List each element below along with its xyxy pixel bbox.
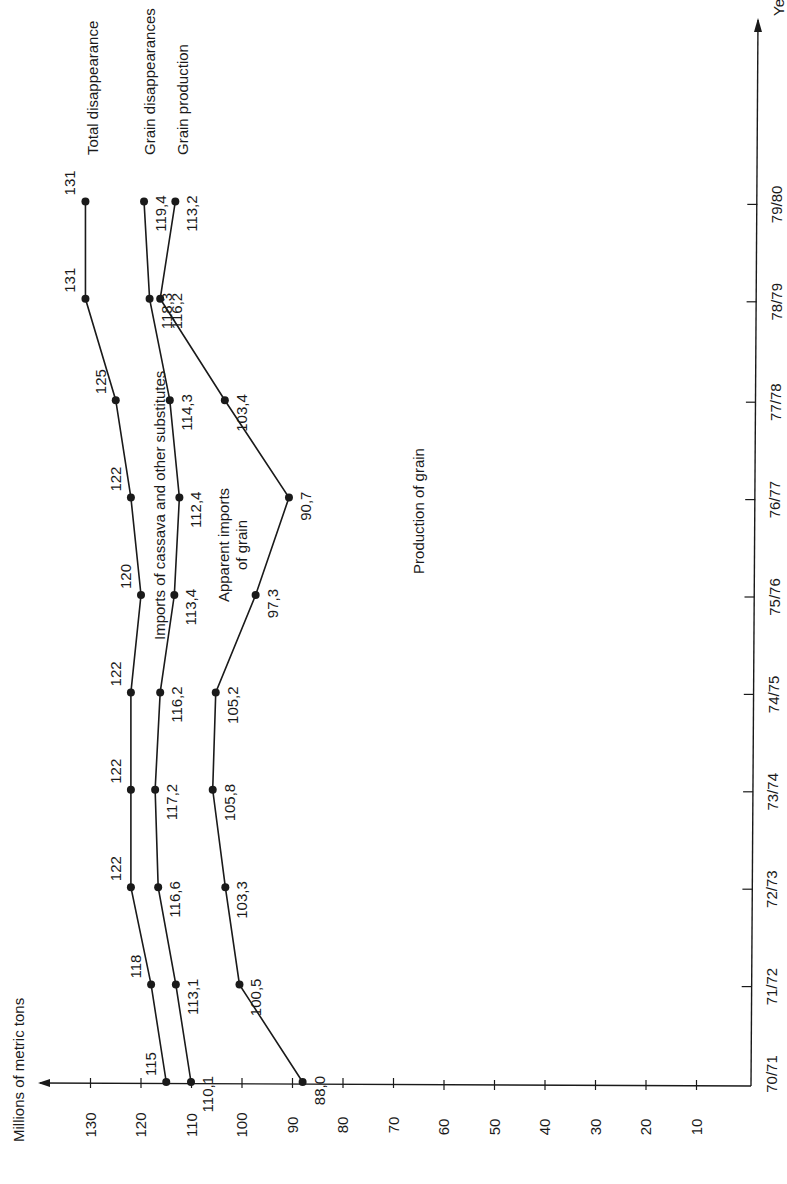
value-tick-label: 130 bbox=[82, 1112, 99, 1137]
data-point-label: 118 bbox=[127, 955, 144, 979]
value-tick-label: 50 bbox=[486, 1119, 503, 1136]
series-label-grain-disappearances: Grain disappearances bbox=[141, 8, 158, 155]
series-label-total-disappearance: Total disappearance bbox=[84, 21, 101, 155]
value-tick-label: 110 bbox=[183, 1113, 200, 1137]
data-point bbox=[187, 1078, 195, 1086]
annotation-apparent-imports-line2: of grain bbox=[233, 520, 250, 570]
data-point bbox=[170, 591, 178, 599]
data-point-label: 113,1 bbox=[184, 979, 201, 1015]
data-point-label: 115 bbox=[142, 1052, 159, 1076]
data-point-label: 131 bbox=[61, 170, 78, 195]
data-point bbox=[127, 688, 135, 696]
series-label-grain-production: Grain production bbox=[174, 44, 191, 155]
data-point bbox=[81, 295, 89, 303]
value-tick-label: 20 bbox=[637, 1119, 654, 1136]
value-tick-label: 70 bbox=[385, 1117, 402, 1134]
annotation-production-of-grain: Production of grain bbox=[410, 448, 427, 574]
year-tick-label: 72/73 bbox=[763, 870, 780, 908]
data-point bbox=[81, 197, 89, 205]
data-point-label: 119,4 bbox=[152, 195, 169, 231]
data-point bbox=[235, 981, 243, 989]
data-point bbox=[175, 494, 183, 502]
value-tick-label: 100 bbox=[233, 1112, 250, 1137]
data-point bbox=[156, 688, 164, 696]
data-point bbox=[172, 981, 180, 989]
data-point bbox=[112, 396, 120, 404]
data-point-label: 116,2 bbox=[168, 686, 185, 722]
data-point-label: 112,4 bbox=[187, 492, 204, 528]
data-point bbox=[151, 786, 159, 794]
year-axis-title: Ye bbox=[770, 0, 787, 16]
data-point-label: 117,2 bbox=[163, 784, 180, 820]
data-point-label: 97,3 bbox=[264, 589, 281, 618]
series-grain-production: 88,0100,5103,3105,8105,297,390,7103,4116… bbox=[156, 195, 327, 1105]
series-layer: 115118122122122120122125131131110,1113,1… bbox=[61, 170, 327, 1112]
data-point-label: 131 bbox=[61, 268, 78, 293]
data-point bbox=[221, 396, 229, 404]
data-point-label: 120 bbox=[117, 564, 134, 589]
series-grain-disappearances: 110,1113,1116,6117,2116,2113,4112,4114,3… bbox=[140, 195, 216, 1112]
year-axis: 70/7171/7272/7373/7474/7575/7676/7777/78… bbox=[742, 18, 786, 1093]
data-point bbox=[166, 396, 174, 404]
year-tick-label: 70/71 bbox=[763, 1055, 780, 1093]
data-point-label: 113,4 bbox=[182, 589, 199, 625]
value-tick-label: 80 bbox=[334, 1117, 351, 1134]
data-point-label: 90,7 bbox=[297, 492, 314, 521]
year-axis-arrow-icon bbox=[754, 18, 762, 32]
value-tick-label: 10 bbox=[688, 1119, 705, 1136]
year-tick-label: 78/79 bbox=[768, 283, 785, 321]
grain-chart: 102030405060708090100110120130 70/7171/7… bbox=[0, 0, 787, 1184]
data-point bbox=[299, 1078, 307, 1086]
data-point bbox=[212, 688, 220, 696]
data-point bbox=[137, 591, 145, 599]
data-point-label: 114,3 bbox=[178, 394, 195, 430]
data-point-label: 110,1 bbox=[199, 1076, 216, 1112]
data-point-label: 116,2 bbox=[168, 293, 185, 329]
year-tick-label: 77/78 bbox=[767, 383, 784, 421]
annotation-imports-cassava: Imports of cassava and other substitutes bbox=[151, 371, 168, 640]
data-point-label: 122 bbox=[107, 856, 124, 881]
year-tick-label: 73/74 bbox=[764, 773, 781, 811]
value-tick-label: 30 bbox=[587, 1119, 604, 1136]
data-point bbox=[162, 1078, 170, 1086]
value-axis: 102030405060708090100110120130 bbox=[38, 1078, 751, 1138]
year-tick-label: 71/72 bbox=[763, 968, 780, 1006]
data-point bbox=[140, 197, 148, 205]
data-point-label: 103,4 bbox=[233, 394, 250, 432]
data-point-label: 105,8 bbox=[221, 784, 238, 822]
value-tick-label: 120 bbox=[132, 1112, 149, 1137]
data-point bbox=[127, 786, 135, 794]
data-point bbox=[252, 591, 260, 599]
value-tick-label: 40 bbox=[536, 1119, 553, 1136]
year-tick-label: 76/77 bbox=[766, 481, 783, 519]
data-point bbox=[154, 883, 162, 891]
annotation-apparent-imports: Apparent imports bbox=[215, 488, 232, 602]
data-point bbox=[285, 494, 293, 502]
year-tick-label: 75/76 bbox=[766, 578, 783, 616]
data-point bbox=[156, 295, 164, 303]
data-point-label: 113,2 bbox=[183, 195, 200, 231]
data-point-label: 122 bbox=[107, 661, 124, 686]
data-point bbox=[209, 786, 217, 794]
data-point-label: 88,0 bbox=[311, 1076, 328, 1105]
data-point bbox=[127, 883, 135, 891]
year-tick-label: 79/80 bbox=[768, 186, 785, 224]
value-axis-title: Millions of metric tons bbox=[10, 998, 27, 1142]
value-axis-arrow-icon bbox=[38, 1079, 50, 1087]
data-point-label: 122 bbox=[107, 467, 124, 492]
value-tick-label: 90 bbox=[284, 1117, 301, 1134]
data-point-label: 105,2 bbox=[224, 686, 241, 724]
data-point bbox=[146, 295, 154, 303]
data-point-label: 100,5 bbox=[247, 979, 264, 1017]
data-point-label: 122 bbox=[107, 759, 124, 784]
data-point bbox=[171, 197, 179, 205]
value-tick-label: 60 bbox=[435, 1119, 452, 1136]
data-point bbox=[127, 494, 135, 502]
year-tick-label: 74/75 bbox=[765, 676, 782, 714]
data-point bbox=[221, 883, 229, 891]
data-point bbox=[147, 981, 155, 989]
data-point-label: 103,3 bbox=[233, 881, 250, 919]
data-point-label: 125 bbox=[92, 369, 109, 394]
data-point-label: 116,6 bbox=[166, 881, 183, 917]
